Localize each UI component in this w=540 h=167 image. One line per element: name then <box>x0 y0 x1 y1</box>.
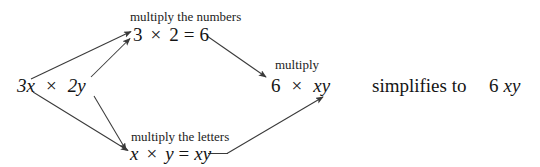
arrow-numbers-to-combined <box>207 36 266 77</box>
arrow-2y-to-numbers <box>91 39 130 78</box>
arrow-2y-to-letters <box>94 96 126 150</box>
equation-numbers: 3×2=6 <box>133 25 209 44</box>
arrow-3x-to-numbers <box>31 32 131 80</box>
letters-result: xy <box>194 143 211 164</box>
combined-number: 6 <box>271 75 281 96</box>
letters-times-icon: × <box>146 143 157 164</box>
arrow-3x-to-letters <box>33 92 128 151</box>
final-letters: xy <box>504 75 521 96</box>
expression-source: 3x×2y <box>17 76 86 95</box>
combined-times-icon: × <box>292 75 303 96</box>
letters-left: x <box>130 143 138 164</box>
source-first-term: 3x <box>17 75 35 96</box>
final-answer: 6xy <box>489 76 520 95</box>
numbers-result: 6 <box>199 24 209 45</box>
expression-combined: 6×xy <box>271 76 330 95</box>
caption-multiply-letters: multiply the letters <box>131 130 229 143</box>
numbers-left: 3 <box>133 24 143 45</box>
final-number: 6 <box>489 75 499 96</box>
source-times-icon: × <box>46 75 57 96</box>
phrase-simplifies-to: simplifies to <box>372 76 466 95</box>
numbers-equals: = <box>184 24 195 45</box>
letters-right: y <box>165 143 173 164</box>
letters-equals: = <box>179 143 190 164</box>
equation-letters: x×y=xy <box>130 144 211 163</box>
source-second-term: 2y <box>68 75 86 96</box>
arrow-letters-to-combined <box>227 97 323 154</box>
caption-multiply: multiply <box>275 58 319 71</box>
numbers-times-icon: × <box>151 24 162 45</box>
combined-letters: xy <box>313 75 330 96</box>
numbers-right: 2 <box>169 24 179 45</box>
diagram-canvas: multiply the numbers 3×2=6 3x×2y multipl… <box>0 0 540 167</box>
caption-multiply-numbers: multiply the numbers <box>130 10 241 23</box>
